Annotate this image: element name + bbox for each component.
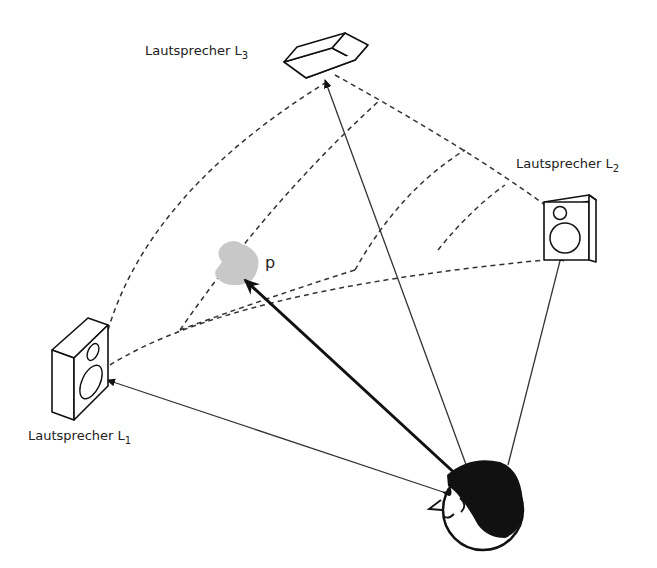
phantom-source-blob (215, 241, 258, 285)
ray-to-l1 (107, 380, 443, 492)
diagram-canvas: p Lautsprecher L3 Lautsprecher L2 Lautsp… (0, 0, 657, 568)
grid-line-3 (355, 150, 465, 270)
arc-l1-l2 (110, 260, 545, 365)
rays (107, 80, 562, 492)
grid-line-4 (438, 185, 505, 250)
eye-icon (447, 488, 452, 496)
phantom-source-label: p (265, 253, 275, 272)
speaker-l3-icon (284, 33, 368, 78)
listener-head-icon (429, 460, 523, 550)
nose-icon (429, 500, 442, 510)
ray-to-l2 (508, 253, 562, 465)
dashed-panning-grid (108, 75, 545, 365)
arc-l3-l2 (335, 75, 545, 205)
speaker-l1-icon (52, 318, 108, 420)
speaker-l2-label: Lautsprecher L2 (516, 156, 619, 174)
ray-to-l3 (325, 80, 468, 470)
speaker-l2-icon (544, 195, 596, 262)
speaker-l1-label: Lautsprecher L1 (28, 428, 131, 446)
grid-line-1 (180, 100, 380, 330)
ray-to-phantom-source (245, 280, 460, 478)
arc-l1-l3 (108, 80, 330, 330)
speaker-l3-label: Lautsprecher L3 (145, 43, 248, 61)
